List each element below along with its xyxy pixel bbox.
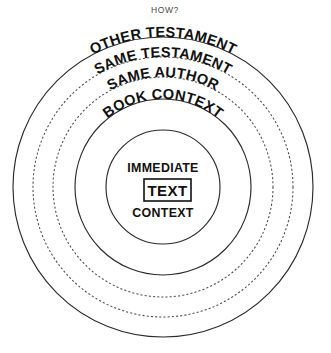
center-label-context: CONTEXT [132,206,193,220]
page-title: HOW? [151,5,179,15]
text-box-label: TEXT [148,182,188,199]
context-circles-diagram: HOW? OTHER TESTAMENT SAME TESTAMENT SAME… [0,0,331,353]
arc-label-book-context: BOOK CONTEXT [100,86,226,121]
center-label-immediate: IMMEDIATE [127,161,198,175]
arc-label-book-context-text: BOOK CONTEXT [100,86,226,121]
